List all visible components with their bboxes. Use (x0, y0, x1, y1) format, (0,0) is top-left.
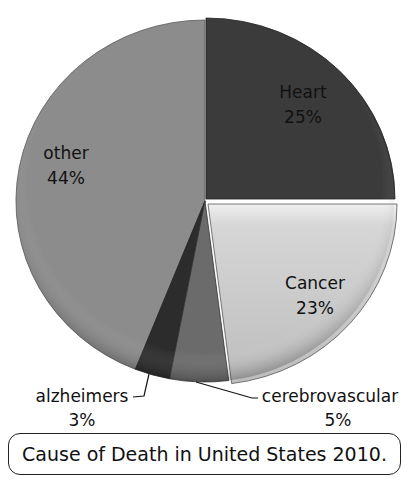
leader-line-alzheimers (133, 374, 149, 397)
label-cancer-name: Cancer (285, 273, 345, 293)
label-other-name: other (43, 143, 88, 163)
label-cerebrovascular-name: cerebrovascular (262, 386, 398, 406)
label-alzheimers-pct: 3% (69, 410, 96, 430)
leader-line-cerebrovascular (196, 382, 258, 398)
slice-cancer (208, 204, 397, 384)
label-cerebrovascular-pct: 5% (325, 410, 352, 430)
label-alzheimers-name: alzheimers (36, 386, 129, 406)
label-other-pct: 44% (47, 168, 85, 188)
label-heart-pct: 25% (284, 107, 322, 127)
label-cancer-pct: 23% (296, 298, 334, 318)
label-heart-name: Heart (279, 82, 327, 102)
pie-chart: Heart 25% Cancer 23% other 44% alzheimer… (0, 0, 418, 488)
chart-title: Cause of Death in United States 2010. (8, 433, 401, 475)
